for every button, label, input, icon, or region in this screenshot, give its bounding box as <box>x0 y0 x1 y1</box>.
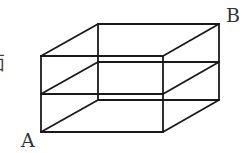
vertex-label-a: A <box>20 129 35 151</box>
depth-bottom-right <box>163 100 219 132</box>
cuboid-diagram: 面 B A <box>0 0 246 153</box>
clipped-left-text: 面 <box>0 52 5 74</box>
front-face <box>41 56 163 132</box>
depth-bottom-left <box>41 100 98 132</box>
depth-top-right <box>163 24 219 56</box>
vertex-label-b: B <box>226 4 240 26</box>
depth-mid-left <box>41 62 98 94</box>
depth-mid-right <box>163 62 219 94</box>
depth-edges <box>41 24 219 132</box>
depth-top-left <box>41 24 98 56</box>
